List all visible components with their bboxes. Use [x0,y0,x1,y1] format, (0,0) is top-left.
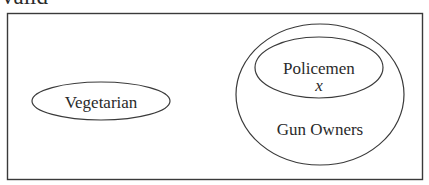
gun-owners-label: Gun Owners [277,120,363,139]
vegetarian-label: Vegetarian [65,93,138,112]
venn-diagram: Vegetarian Gun Owners Policemen x [0,0,429,185]
existence-marker-x: x [314,76,323,95]
